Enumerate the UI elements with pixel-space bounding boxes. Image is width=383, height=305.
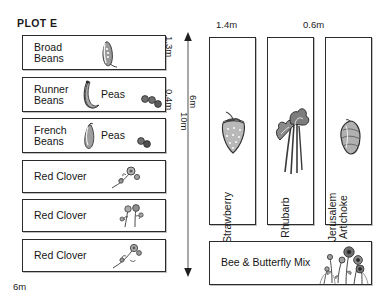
bed-red-clover-3[interactable]: Red Clover — [22, 239, 166, 272]
bed-label-rhubarb: Rhubarb — [279, 197, 291, 237]
bed-broad-beans[interactable]: Broad Beans — [22, 35, 166, 70]
dimension-right-width-1: 1.4m — [216, 19, 237, 30]
bed-label-jerusalem-artichoke: Jerusalem Artichoke — [327, 193, 349, 241]
wildflower-mix-icon — [316, 244, 370, 285]
bed-bee-butterfly-mix[interactable]: Bee & Butterfly Mix — [209, 241, 372, 285]
bed-label-primary: Runner Beans — [34, 83, 68, 106]
dimension-plot-width-bottom: 6m — [13, 281, 26, 292]
bed-red-clover-2[interactable]: Red Clover — [22, 199, 166, 232]
bed-label-secondary: Peas — [101, 130, 125, 142]
dimension-bed-height-2: 0.4m — [164, 89, 175, 110]
clover-sprig-icon — [115, 203, 147, 230]
bed-label-primary: Red Clover — [34, 250, 87, 262]
bed-rhubarb[interactable]: Rhubarb — [267, 37, 314, 225]
plot-depth-arrow — [182, 32, 194, 277]
page-title: PLOT E — [17, 17, 57, 29]
bed-label-primary: French Beans — [34, 124, 67, 147]
bed-label-primary: Red Clover — [34, 210, 87, 222]
bed-label-bee-butterfly: Bee & Butterfly Mix — [221, 257, 310, 269]
bed-label-primary: Red Clover — [34, 171, 87, 183]
dimension-bed-height-1: 1.3m — [164, 36, 175, 57]
bed-runner-beans-peas[interactable]: Runner Beans Peas — [22, 77, 166, 112]
rhubarb-icon — [271, 100, 313, 178]
dimension-plot-depth: 10m — [179, 112, 190, 130]
bed-red-clover-1[interactable]: Red Clover — [22, 160, 166, 193]
dimension-right-depth: 6m — [188, 95, 199, 108]
dimension-right-width-2: 0.6m — [303, 19, 324, 30]
pea-seeds-icon — [136, 136, 156, 150]
bed-jerusalem-artichoke[interactable]: Jerusalem Artichoke — [325, 37, 372, 225]
pea-seeds-icon — [140, 94, 164, 110]
bed-strawberry[interactable]: Strawberry — [209, 37, 256, 225]
bed-label-secondary: Peas — [101, 89, 125, 101]
bed-label-primary: Broad Beans — [34, 41, 64, 64]
broad-bean-pod-icon — [91, 39, 125, 69]
clover-sprig-icon — [109, 165, 143, 191]
clover-sprig-icon — [111, 243, 145, 270]
bed-french-beans-peas[interactable]: French Beans Peas — [22, 118, 166, 153]
bed-label-strawberry: Strawberry — [221, 192, 233, 243]
strawberry-icon — [216, 108, 252, 160]
jerusalem-artichoke-icon — [335, 118, 365, 160]
